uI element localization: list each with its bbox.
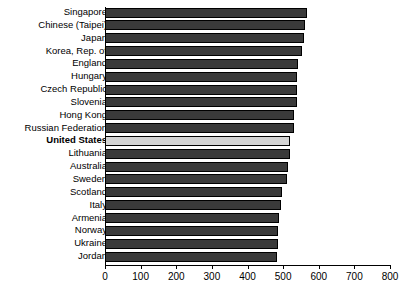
bar-track bbox=[105, 46, 302, 56]
bar-row-label: Sweden bbox=[0, 174, 107, 184]
bar-row: Singapore bbox=[0, 7, 405, 20]
x-axis-tick bbox=[141, 265, 142, 269]
bar-track bbox=[105, 174, 287, 184]
bar-row-label: Hungary bbox=[0, 71, 107, 81]
bar-track bbox=[105, 110, 294, 120]
bar-row-label: Singapore bbox=[0, 7, 107, 17]
bar-row-label: Czech Republic bbox=[0, 84, 107, 94]
bar-track bbox=[105, 33, 304, 43]
bar bbox=[105, 213, 279, 223]
bar bbox=[105, 59, 298, 69]
bar-track bbox=[105, 72, 297, 82]
bar-row-label: United States bbox=[0, 135, 107, 145]
bar-track bbox=[105, 8, 307, 18]
bar bbox=[105, 239, 278, 249]
bar-track bbox=[105, 85, 297, 95]
bar-track bbox=[105, 213, 279, 223]
bar bbox=[105, 110, 294, 120]
x-axis-tick bbox=[354, 265, 355, 269]
bar-row: Slovenia bbox=[0, 97, 405, 110]
bar-row-label: England bbox=[0, 58, 107, 68]
x-axis-tick-label: 300 bbox=[204, 271, 221, 282]
bar-track bbox=[105, 252, 277, 262]
bar-row-label: Hong Kong bbox=[0, 110, 107, 120]
bar-row: Chinese (Taipei) bbox=[0, 20, 405, 33]
bar-row-label: Korea, Rep. of bbox=[0, 46, 107, 56]
bar-rows-container: SingaporeChinese (Taipei)JapanKorea, Rep… bbox=[0, 7, 405, 264]
bar-track bbox=[105, 200, 281, 210]
bar-row: Hong Kong bbox=[0, 110, 405, 123]
bar-track bbox=[105, 97, 297, 107]
bar-row: Italy bbox=[0, 200, 405, 213]
bar-row: Czech Republic bbox=[0, 84, 405, 97]
chart-plot-area: SingaporeChinese (Taipei)JapanKorea, Rep… bbox=[0, 0, 405, 295]
bar-row: England bbox=[0, 58, 405, 71]
x-axis-tick bbox=[212, 265, 213, 269]
bar-track bbox=[105, 59, 298, 69]
x-axis-tick-label: 200 bbox=[168, 271, 185, 282]
bar-row: Lithuania bbox=[0, 148, 405, 161]
x-axis: 0100200300400500600700800 bbox=[105, 265, 390, 295]
bar-track bbox=[105, 123, 294, 133]
bar-row-label: Jordan bbox=[0, 251, 107, 261]
bar-row: Korea, Rep. of bbox=[0, 46, 405, 59]
x-axis-tick-label: 0 bbox=[102, 271, 108, 282]
bar bbox=[105, 123, 294, 133]
bar bbox=[105, 174, 287, 184]
x-axis-tick bbox=[390, 265, 391, 269]
bar-track bbox=[105, 136, 290, 146]
bar-row: Scotland bbox=[0, 187, 405, 200]
bar-track bbox=[105, 149, 290, 159]
x-axis-tick-label: 600 bbox=[310, 271, 327, 282]
bar-row: Armenia bbox=[0, 213, 405, 226]
bar-row-label: Italy bbox=[0, 200, 107, 210]
bar-row: Ukraine bbox=[0, 238, 405, 251]
bar bbox=[105, 85, 297, 95]
x-axis-tick-label: 400 bbox=[239, 271, 256, 282]
x-axis-tick bbox=[319, 265, 320, 269]
bar-row: Japan bbox=[0, 33, 405, 46]
bar-row: Sweden bbox=[0, 174, 405, 187]
bar-row: Australia bbox=[0, 161, 405, 174]
bar-track bbox=[105, 162, 288, 172]
bar-row: Jordan bbox=[0, 251, 405, 264]
bar-row-label: Australia bbox=[0, 161, 107, 171]
x-axis-tick-label: 500 bbox=[275, 271, 292, 282]
bar bbox=[105, 252, 277, 262]
bar-row: United States bbox=[0, 135, 405, 148]
x-axis-tick-label: 800 bbox=[382, 271, 399, 282]
y-axis-baseline bbox=[105, 7, 106, 265]
x-axis-tick bbox=[248, 265, 249, 269]
bar bbox=[105, 72, 297, 82]
bar-row-label: Lithuania bbox=[0, 148, 107, 158]
bar bbox=[105, 20, 305, 30]
bar-track bbox=[105, 239, 278, 249]
x-axis-tick-label: 700 bbox=[346, 271, 363, 282]
bar-row-label: Norway bbox=[0, 225, 107, 235]
bar-row-label: Russian Federation bbox=[0, 123, 107, 133]
bar-row: Norway bbox=[0, 225, 405, 238]
bar-track bbox=[105, 226, 278, 236]
bar bbox=[105, 162, 288, 172]
x-axis-tick bbox=[105, 265, 106, 269]
x-axis-tick bbox=[176, 265, 177, 269]
bar-track bbox=[105, 187, 282, 197]
bar bbox=[105, 187, 282, 197]
bar bbox=[105, 136, 290, 146]
bar-row-label: Scotland bbox=[0, 187, 107, 197]
bar-row-label: Armenia bbox=[0, 213, 107, 223]
bar-row-label: Japan bbox=[0, 33, 107, 43]
bar bbox=[105, 226, 278, 236]
bar-track bbox=[105, 20, 305, 30]
bar bbox=[105, 33, 304, 43]
x-axis-tick bbox=[283, 265, 284, 269]
x-axis-tick-label: 100 bbox=[132, 271, 149, 282]
bar bbox=[105, 97, 297, 107]
bar bbox=[105, 149, 290, 159]
bar-chart-figure: SingaporeChinese (Taipei)JapanKorea, Rep… bbox=[0, 0, 405, 295]
bar-row-label: Ukraine bbox=[0, 238, 107, 248]
bar-row-label: Slovenia bbox=[0, 97, 107, 107]
bar bbox=[105, 8, 307, 18]
bar bbox=[105, 46, 302, 56]
bar-row-label: Chinese (Taipei) bbox=[0, 20, 107, 30]
